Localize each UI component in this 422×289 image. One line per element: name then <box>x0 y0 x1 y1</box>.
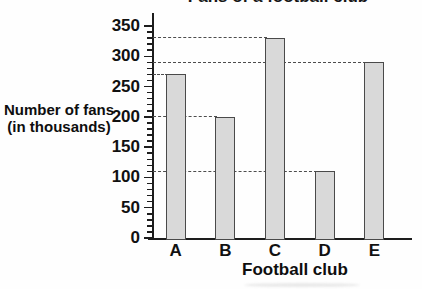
y-minor-tick <box>147 110 152 112</box>
x-tick-label-D: D <box>312 242 338 260</box>
scan-smudge <box>244 283 360 287</box>
y-minor-tick <box>147 62 152 64</box>
y-tick-label: 350 <box>100 17 140 35</box>
y-major-tick <box>144 56 152 58</box>
y-minor-tick <box>147 92 152 94</box>
y-minor-tick <box>147 231 152 233</box>
y-tick-label: 50 <box>100 199 140 217</box>
guide-line-C <box>153 37 267 38</box>
y-minor-tick <box>147 189 152 191</box>
y-major-tick <box>144 86 152 88</box>
bar-chart-figure: Fans of a football club Number of fans (… <box>0 0 422 289</box>
y-major-tick <box>144 177 152 179</box>
y-minor-tick <box>147 43 152 45</box>
y-major-tick <box>144 207 152 209</box>
y-tick-label: 100 <box>100 168 140 186</box>
y-minor-tick <box>147 183 152 185</box>
x-tick-label-A: A <box>163 242 189 260</box>
bar-A <box>166 74 186 239</box>
y-axis-line <box>152 13 154 240</box>
y-minor-tick <box>147 225 152 227</box>
x-tick-label-B: B <box>212 242 238 260</box>
y-minor-tick <box>147 152 152 154</box>
bar-D <box>315 171 335 239</box>
y-minor-tick <box>147 80 152 82</box>
y-minor-tick <box>147 49 152 51</box>
y-minor-tick <box>147 201 152 203</box>
y-minor-tick <box>147 165 152 167</box>
plot-area: 050100150200250300350ABCDE <box>0 0 422 289</box>
y-minor-tick <box>147 159 152 161</box>
y-minor-tick <box>147 68 152 70</box>
y-minor-tick <box>147 134 152 136</box>
y-major-tick <box>144 146 152 148</box>
y-minor-tick <box>147 171 152 173</box>
bar-B <box>215 117 235 240</box>
y-minor-tick <box>147 213 152 215</box>
y-tick-label: 200 <box>100 108 140 126</box>
y-minor-tick <box>147 122 152 124</box>
y-minor-tick <box>147 104 152 106</box>
y-tick-label: 250 <box>100 78 140 96</box>
y-tick-label: 150 <box>100 138 140 156</box>
x-tick-label-C: C <box>262 242 288 260</box>
x-tick-label-E: E <box>361 242 387 260</box>
guide-line-E <box>153 62 366 63</box>
y-major-tick <box>144 237 152 239</box>
y-major-tick <box>144 116 152 118</box>
y-minor-tick <box>147 31 152 33</box>
bar-E <box>364 62 384 239</box>
y-minor-tick <box>147 74 152 76</box>
y-minor-tick <box>147 128 152 130</box>
y-tick-label: 0 <box>100 229 140 247</box>
y-minor-tick <box>147 195 152 197</box>
y-minor-tick <box>147 140 152 142</box>
y-minor-tick <box>147 37 152 39</box>
bar-C <box>265 38 285 239</box>
y-major-tick <box>144 25 152 27</box>
y-minor-tick <box>147 219 152 221</box>
y-minor-tick <box>147 98 152 100</box>
x-axis-label: Football club <box>242 260 344 280</box>
y-tick-label: 300 <box>100 47 140 65</box>
